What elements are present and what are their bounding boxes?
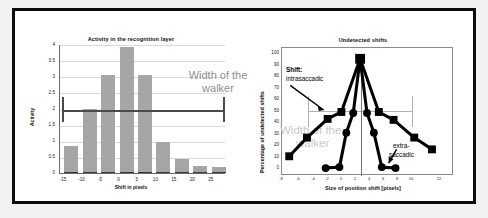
- chart-a-xtick-7: 20: [183, 177, 202, 182]
- chart-b-ytick-80: 80: [269, 73, 279, 78]
- chart-a-walker-cap-right: [223, 97, 225, 122]
- chart-b-xtick-8: 8: [391, 176, 403, 181]
- chart-a-plot-area: [59, 45, 225, 174]
- chart-a-ytick-2-5: 2.5: [35, 90, 55, 95]
- chart-b-series-overlay: [282, 48, 452, 174]
- chart-a-ytick-1-5: 1.5: [35, 122, 55, 127]
- chart-a-ytick-3-5: 3.5: [35, 58, 55, 63]
- chart-b-arrow-intrasaccadic: [290, 85, 323, 110]
- chart-a-xtick-5: 10: [146, 177, 165, 182]
- chart-b-ytick-50: 50: [269, 108, 279, 113]
- chart-b-ytick-10: 10: [269, 154, 279, 159]
- chart-b-xtick-6: 4: [363, 176, 375, 181]
- chart-b-annotation-shift-subtitle: intrasaccadic: [286, 75, 323, 83]
- chart-a-xlabel: Shift in pixels: [15, 184, 247, 190]
- chart-b-annotation-extra-line2: saccadic: [389, 151, 414, 159]
- chart-b-ylabel: Percentage of undetected shifts: [259, 91, 265, 173]
- chart-a-ytick-0-5: 0.5: [35, 154, 55, 159]
- chart-b-ytick-20: 20: [269, 142, 279, 147]
- chart-b-xtick-3: -2: [321, 176, 333, 181]
- chart-a-xtick-1: -10: [72, 177, 91, 182]
- chart-a-walker-errorbar: [62, 110, 224, 112]
- chart-a-xtick-6: 15: [164, 177, 183, 182]
- panel-a: Activity in the recognition layer (a) 4 …: [15, 11, 247, 201]
- chart-b-ytick-70: 70: [269, 85, 279, 90]
- chart-a-walker-cap-left: [62, 97, 64, 122]
- chart-a-bar-1: [83, 109, 97, 174]
- chart-b-ytick-60: 60: [269, 96, 279, 101]
- chart-b-xtick-0: -8: [275, 176, 287, 181]
- chart-a-xtick-4: 5: [127, 177, 146, 182]
- chart-a-bar-6: [175, 159, 189, 174]
- chart-b-xtick-4: 0: [335, 176, 347, 181]
- chart-b-ytick-30: 30: [269, 131, 279, 136]
- chart-a-bar-8: [212, 167, 226, 174]
- chart-a-xtick-2: -5: [91, 177, 110, 182]
- chart-a-ylabel: Activity: [29, 108, 35, 126]
- chart-b-xtick-1: -6: [292, 176, 304, 181]
- chart-b-xtick-2: -4: [307, 176, 319, 181]
- chart-b-annotation-shift-title: Shift:: [286, 66, 302, 74]
- chart-b-ytick-100: 100: [269, 50, 279, 55]
- chart-a-bar-5: [156, 142, 170, 173]
- chart-b-ytick-40: 40: [269, 119, 279, 124]
- chart-b-xlabel: Size of position shift [pixels]: [247, 185, 479, 191]
- chart-a-bar-2: [101, 75, 115, 173]
- chart-a-bar-0: [64, 146, 78, 173]
- chart-a-bar-7: [193, 166, 207, 173]
- panel-b: Undetected shifts (b) Percentage of unde…: [247, 11, 479, 201]
- chart-a-ytick-0: 0: [35, 170, 55, 175]
- chart-b-annotation-extra-line1: extra-: [393, 142, 409, 150]
- chart-a-ytick-2: 2: [35, 106, 55, 111]
- chart-b-ytick-0: 0: [269, 165, 279, 170]
- chart-b-xtick-7: 6: [377, 176, 389, 181]
- chart-a-ytick-1: 1: [35, 138, 55, 143]
- chart-a-xtick-0: -15: [54, 177, 73, 182]
- chart-a-ytick-3: 3: [35, 74, 55, 79]
- chart-b-xtick-10: 12: [433, 176, 445, 181]
- figure-frame: Activity in the recognition layer (a) 4 …: [12, 8, 476, 204]
- chart-a-xtick-3: 0: [109, 177, 128, 182]
- chart-b-xtick-5: 2: [349, 176, 361, 181]
- chart-b-xtick-9: 10: [405, 176, 417, 181]
- chart-a-bar-4: [138, 75, 152, 173]
- chart-b-plot-area: Width of the walker: [281, 47, 453, 175]
- chart-b-ytick-90: 90: [269, 62, 279, 67]
- chart-a-xtick-8: 25: [201, 177, 220, 182]
- chart-b-title: Undetected shifts: [247, 37, 479, 43]
- chart-a-ytick-4: 4: [35, 42, 55, 47]
